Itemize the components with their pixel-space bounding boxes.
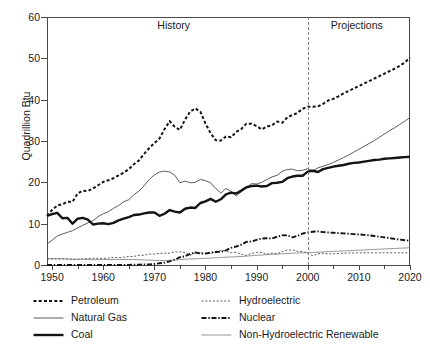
- x-tick-label: 1950: [32, 271, 72, 283]
- legend-label: Petroleum: [71, 295, 119, 306]
- y-tick-label: 0: [14, 260, 40, 270]
- x-tick-minor: [384, 265, 385, 269]
- x-tick-major: [154, 265, 155, 270]
- y-tick: [41, 265, 47, 266]
- x-tick-label: 1960: [83, 271, 123, 283]
- x-tick-minor: [180, 265, 181, 269]
- x-tick-major: [359, 265, 360, 270]
- legend-item-nuclear[interactable]: Nuclear: [201, 309, 423, 326]
- y-tick-label: 20: [14, 177, 40, 187]
- legend-item-hydroelectric[interactable]: Hydroelectric: [201, 292, 423, 309]
- legend-swatch-icon: [33, 313, 64, 323]
- energy-consumption-chart: Quadrillion Btu 0102030405060 1950196019…: [0, 0, 430, 346]
- y-tick-label: 40: [14, 95, 40, 105]
- x-tick-label: 2000: [288, 271, 328, 283]
- legend-label: Coal: [71, 329, 93, 340]
- legend-swatch-icon: [201, 330, 232, 340]
- y-tick-label: 50: [14, 53, 40, 63]
- y-tick-label: 60: [14, 12, 40, 22]
- x-tick-label: 2020: [390, 271, 430, 283]
- plot-area: History Projections: [47, 17, 410, 265]
- x-tick-label: 1970: [134, 271, 174, 283]
- series-lines: [47, 17, 410, 265]
- legend-label: Hydroelectric: [239, 295, 300, 306]
- legend-swatch-icon: [201, 296, 232, 306]
- y-tick-label: 10: [14, 219, 40, 229]
- x-tick-major: [410, 265, 411, 270]
- y-tick-label: 30: [14, 136, 40, 146]
- projections-label: Projections: [331, 19, 383, 31]
- x-tick-label: 2010: [339, 271, 379, 283]
- chart-legend: PetroleumHydroelectricNatural GasNuclear…: [33, 292, 423, 343]
- legend-label: Non-Hydroelectric Renewable: [239, 329, 378, 340]
- x-tick-minor: [231, 265, 232, 269]
- x-tick-minor: [282, 265, 283, 269]
- legend-swatch-icon: [33, 330, 64, 340]
- x-tick-label: 1980: [185, 271, 225, 283]
- x-tick-major: [205, 265, 206, 270]
- legend-item-petroleum[interactable]: Petroleum: [33, 292, 201, 309]
- x-tick-major: [257, 265, 258, 270]
- series-line-hydroelectric: [47, 250, 410, 259]
- legend-item-natural-gas[interactable]: Natural Gas: [33, 309, 201, 326]
- series-line-nuclear: [47, 231, 410, 265]
- history-projection-divider: [308, 17, 309, 265]
- series-line-petroleum: [47, 58, 410, 216]
- x-tick-label: 1990: [237, 271, 277, 283]
- history-label: History: [157, 19, 190, 31]
- x-tick-major: [308, 265, 309, 270]
- legend-label: Nuclear: [239, 312, 275, 323]
- legend-swatch-icon: [201, 313, 232, 323]
- x-tick-major: [52, 265, 53, 270]
- legend-item-non-hydroelectric-renewable[interactable]: Non-Hydroelectric Renewable: [201, 326, 423, 343]
- legend-item-coal[interactable]: Coal: [33, 326, 201, 343]
- legend-swatch-icon: [33, 296, 64, 306]
- x-tick-minor: [333, 265, 334, 269]
- legend-label: Natural Gas: [71, 312, 127, 323]
